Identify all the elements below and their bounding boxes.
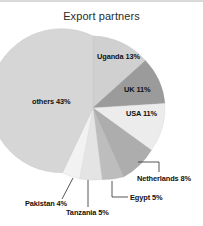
pie-graphic bbox=[0, 0, 203, 226]
callout-label-pakistan: Pakistan 4% bbox=[25, 199, 67, 208]
pie-slices bbox=[0, 29, 165, 180]
slice-label-usa: USA 11% bbox=[126, 109, 157, 118]
callout-label-netherlands: Netherlands 8% bbox=[137, 174, 191, 183]
leader-line-egypt bbox=[112, 181, 128, 197]
slice-label-uganda: Uganda 13% bbox=[97, 52, 140, 61]
pie-chart-figure: Export partners bbox=[0, 0, 203, 226]
callout-label-egypt: Egypt 5% bbox=[130, 193, 162, 202]
slice-label-uk: UK 11% bbox=[124, 85, 151, 94]
slice-label-others: others 43% bbox=[32, 97, 70, 106]
leader-line-pakistan bbox=[62, 178, 73, 199]
callout-label-tanzania: Tanzania 5% bbox=[66, 208, 109, 217]
